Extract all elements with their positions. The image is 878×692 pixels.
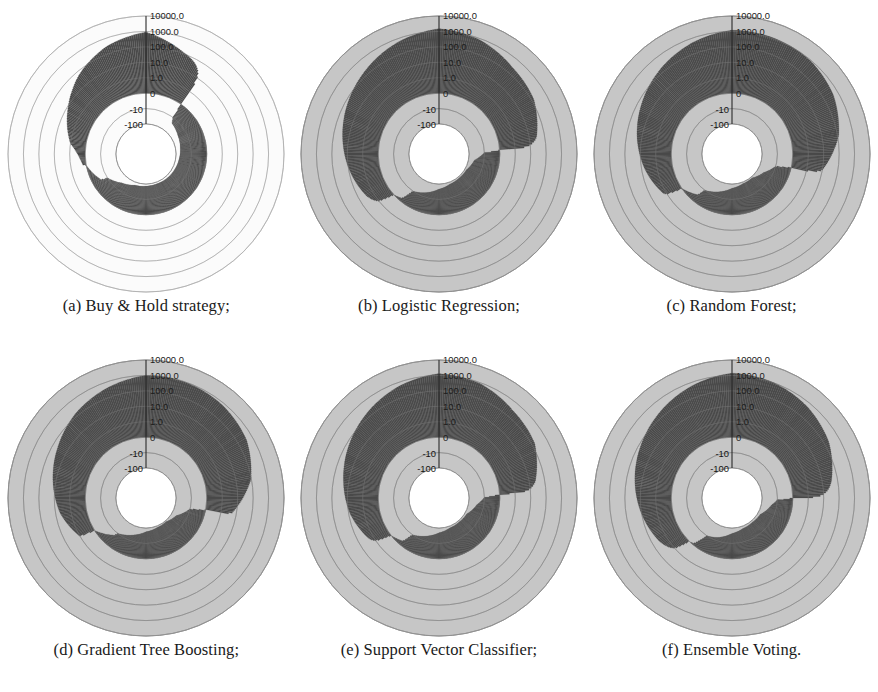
panel-f: 10000.01000.0100.010.01.00-10-100 (f) En… — [585, 346, 878, 692]
radial-tick-label: 10000.0 — [736, 10, 770, 21]
radial-tick-label: 1.0 — [736, 416, 749, 427]
inner-hub — [702, 468, 762, 528]
radial-tick-label: 0 — [443, 432, 448, 443]
radial-tick-label: -10 — [715, 448, 729, 459]
radial-tick-label: 100.0 — [443, 41, 466, 52]
radial-tick-label: -10 — [422, 104, 436, 115]
radial-tick-label: -100 — [417, 463, 436, 474]
radial-tick-label: 100.0 — [736, 385, 759, 396]
polar-chart-c: 10000.01000.0100.010.01.00-10-100 — [586, 4, 878, 296]
panel-caption-f: (f) Ensemble Voting. — [662, 642, 801, 659]
radial-tick-label: -100 — [125, 119, 144, 130]
radial-tick-label: 0 — [150, 88, 155, 99]
panel-e: 10000.01000.0100.010.01.00-10-100 (e) Su… — [293, 346, 586, 692]
radial-tick-label: 0 — [736, 88, 741, 99]
panel-caption-d: (d) Gradient Tree Boosting; — [54, 642, 240, 659]
radial-tick-label: 10.0 — [150, 57, 168, 68]
radial-tick-label: 0 — [736, 432, 741, 443]
polar-plot-e: 10000.01000.0100.010.01.00-10-100 — [293, 348, 585, 640]
radial-tick-label: 10000.0 — [443, 10, 477, 21]
radial-tick-label: -100 — [125, 463, 144, 474]
polar-plot-c: 10000.01000.0100.010.01.00-10-100 — [586, 4, 878, 296]
polar-chart-f: 10000.01000.0100.010.01.00-10-100 — [586, 348, 878, 640]
radial-tick-label: 0 — [150, 432, 155, 443]
polar-plot-b: 10000.01000.0100.010.01.00-10-100 — [293, 4, 585, 296]
panel-d: 10000.01000.0100.010.01.00-10-100 (d) Gr… — [0, 346, 293, 692]
radial-tick-label: 100.0 — [443, 385, 466, 396]
inner-hub — [409, 468, 469, 528]
polar-plot-f: 10000.01000.0100.010.01.00-10-100 — [586, 348, 878, 640]
radial-tick-label: -100 — [710, 119, 729, 130]
radial-tick-label: -10 — [422, 448, 436, 459]
radial-tick-label: 0 — [443, 88, 448, 99]
chart-a-content: 10000.01000.0100.010.01.00-10-100 — [8, 10, 284, 292]
radial-tick-label: 100.0 — [150, 41, 173, 52]
radial-tick-label: 10.0 — [150, 401, 168, 412]
radial-tick-label: 1000.0 — [443, 26, 472, 37]
polar-chart-b: 10000.01000.0100.010.01.00-10-100 — [293, 4, 585, 296]
chart-c-content: 10000.01000.0100.010.01.00-10-100 — [594, 10, 870, 292]
panel-caption-b: (b) Logistic Regression; — [358, 298, 520, 315]
radial-tick-label: 1000.0 — [736, 26, 765, 37]
radial-tick-label: 10000.0 — [736, 354, 770, 365]
panel-a: 10000.01000.0100.010.01.00-10-100 (a) Bu… — [0, 0, 293, 346]
radial-tick-label: 1000.0 — [443, 370, 472, 381]
panel-c: 10000.01000.0100.010.01.00-10-100 (c) Ra… — [585, 0, 878, 346]
radial-tick-label: 10.0 — [443, 57, 461, 68]
polar-chart-e: 10000.01000.0100.010.01.00-10-100 — [293, 348, 585, 640]
polar-plot-d: 10000.01000.0100.010.01.00-10-100 — [0, 348, 292, 640]
radial-tick-label: 100.0 — [736, 41, 759, 52]
inner-hub — [116, 468, 176, 528]
radial-tick-label: 100.0 — [150, 385, 173, 396]
polar-chart-d: 10000.01000.0100.010.01.00-10-100 — [0, 348, 292, 640]
radial-tick-label: -10 — [130, 448, 144, 459]
radial-tick-label: -10 — [130, 104, 144, 115]
data-wedge — [78, 153, 86, 154]
panel-caption-a: (a) Buy & Hold strategy; — [63, 298, 230, 315]
radial-tick-label: 1.0 — [150, 416, 163, 427]
data-wedge — [495, 495, 500, 496]
radial-tick-label: 1.0 — [150, 72, 163, 83]
figure-grid: 10000.01000.0100.010.01.00-10-100 (a) Bu… — [0, 0, 878, 692]
polar-chart-a: 10000.01000.0100.010.01.00-10-100 — [0, 4, 292, 296]
data-wedge — [484, 498, 500, 499]
radial-tick-label: 10000.0 — [443, 354, 477, 365]
chart-f-content: 10000.01000.0100.010.01.00-10-100 — [594, 354, 870, 636]
radial-tick-label: 10.0 — [736, 57, 754, 68]
radial-tick-label: 10000.0 — [150, 354, 184, 365]
radial-tick-label: -10 — [715, 104, 729, 115]
panel-caption-e: (e) Support Vector Classifier; — [341, 642, 538, 659]
radial-tick-label: 1000.0 — [150, 26, 179, 37]
inner-hub — [702, 124, 762, 184]
radial-tick-label: 1.0 — [443, 416, 456, 427]
polar-plot-a: 10000.01000.0100.010.01.00-10-100 — [0, 4, 292, 296]
radial-tick-label: 10000.0 — [150, 10, 184, 21]
inner-hub — [116, 124, 176, 184]
radial-tick-label: -100 — [710, 463, 729, 474]
radial-tick-label: 10.0 — [736, 401, 754, 412]
panel-b: 10000.01000.0100.010.01.00-10-100 (b) Lo… — [293, 0, 586, 346]
radial-tick-label: 1.0 — [736, 72, 749, 83]
radial-tick-label: 10.0 — [443, 401, 461, 412]
data-wedge — [483, 154, 500, 155]
chart-b-content: 10000.01000.0100.010.01.00-10-100 — [301, 10, 577, 292]
radial-tick-label: 1000.0 — [736, 370, 765, 381]
radial-tick-label: -100 — [417, 119, 436, 130]
chart-d-content: 10000.01000.0100.010.01.00-10-100 — [8, 354, 284, 636]
radial-tick-label: 1.0 — [443, 72, 456, 83]
panel-caption-c: (c) Random Forest; — [667, 298, 797, 315]
data-wedge — [789, 498, 792, 499]
inner-hub — [409, 124, 469, 184]
chart-e-content: 10000.01000.0100.010.01.00-10-100 — [301, 354, 577, 636]
radial-tick-label: 1000.0 — [150, 370, 179, 381]
